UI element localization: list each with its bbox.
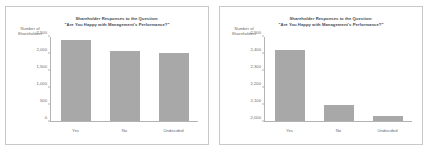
chart-panel-left: Shareholder Responses to the Question: "… — [5, 6, 209, 145]
x-category-label-left-0: Yes — [51, 128, 100, 133]
bar-group-right — [265, 37, 412, 121]
x-axis-line-right — [264, 121, 412, 122]
chart-title-right-line2: "Are You Happy with Management's Perform… — [246, 22, 416, 28]
y-tick-label-right-1: 2,100 — [251, 98, 264, 103]
y-tick-mark-left-3 — [48, 70, 50, 71]
y-tick-label-right-3: 2,300 — [251, 64, 264, 69]
chart-pair-container: Shareholder Responses to the Question: "… — [0, 0, 429, 151]
bar-slot-left-0 — [51, 37, 100, 121]
y-tick-label-right-2: 2,200 — [251, 81, 264, 86]
y-tick-label-left-0: 0 — [45, 115, 50, 120]
y-tick-mark-left-4 — [48, 53, 50, 54]
y-tick-mark-right-1 — [262, 104, 264, 105]
plot-area-right: 2,0002,1002,2002,3002,4002,500 — [264, 37, 412, 122]
bar-right-yes — [275, 50, 305, 121]
y-tick-label-left-5: 2,500 — [37, 30, 50, 35]
bar-group-left — [51, 37, 198, 121]
y-tick-label-left-1: 500 — [40, 98, 50, 103]
y-tick-label-right-0: 2,000 — [251, 115, 264, 120]
y-tick-label-left-2: 1,000 — [37, 81, 50, 86]
y-tick-mark-right-5 — [262, 36, 264, 37]
bar-left-undecided — [159, 53, 189, 121]
y-tick-mark-right-2 — [262, 87, 264, 88]
bar-left-no — [110, 51, 140, 121]
x-category-labels-right: YesNoUndecided — [265, 128, 412, 133]
y-tick-mark-left-5 — [48, 36, 50, 37]
y-tick-label-left-3: 1,500 — [37, 64, 50, 69]
plot-area-left: 05001,0001,5002,0002,500 — [50, 37, 198, 122]
bar-slot-right-1 — [314, 37, 363, 121]
x-category-label-right-2: Undecided — [363, 128, 412, 133]
bar-slot-right-0 — [265, 37, 314, 121]
bar-right-undecided — [373, 116, 403, 121]
y-tick-label-right-5: 2,500 — [251, 30, 264, 35]
bar-slot-right-2 — [363, 37, 412, 121]
y-tick-mark-left-0 — [48, 121, 50, 122]
x-category-label-right-1: No — [314, 128, 363, 133]
x-category-label-left-2: Undecided — [149, 128, 198, 133]
x-category-labels-left: YesNoUndecided — [51, 128, 198, 133]
bar-slot-left-1 — [100, 37, 149, 121]
y-tick-mark-left-2 — [48, 87, 50, 88]
chart-title-left-line2: "Are You Happy with Management's Perform… — [32, 22, 202, 28]
bar-right-no — [324, 105, 354, 121]
y-tick-mark-left-1 — [48, 104, 50, 105]
y-tick-mark-right-4 — [262, 53, 264, 54]
x-category-label-left-1: No — [100, 128, 149, 133]
x-axis-line-left — [50, 121, 198, 122]
chart-panel-right: Shareholder Responses to the Question: "… — [219, 6, 423, 145]
y-tick-label-right-4: 2,400 — [251, 47, 264, 52]
y-tick-mark-right-3 — [262, 70, 264, 71]
bar-slot-left-2 — [149, 37, 198, 121]
y-tick-mark-right-0 — [262, 121, 264, 122]
y-tick-label-left-4: 2,000 — [37, 47, 50, 52]
bar-left-yes — [61, 40, 91, 121]
x-category-label-right-0: Yes — [265, 128, 314, 133]
